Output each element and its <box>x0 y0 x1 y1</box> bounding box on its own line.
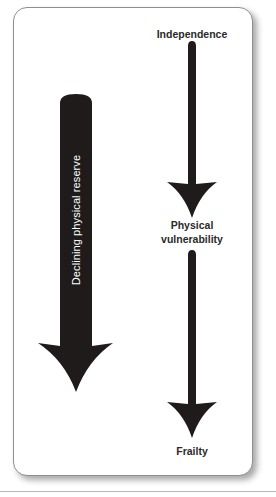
declining-reserve-label: Declining physical reserve <box>70 155 82 285</box>
arrow-vulnerability-to-frailty <box>167 250 217 438</box>
stage-physical-vulnerability-line1: Physical <box>142 218 242 232</box>
diagram-arrows <box>0 0 276 497</box>
stage-physical-vulnerability: Physical vulnerability <box>142 218 242 246</box>
stage-frailty: Frailty <box>142 444 242 458</box>
stage-physical-vulnerability-line2: vulnerability <box>142 232 242 246</box>
stage-independence: Independence <box>142 27 242 41</box>
arrow-independence-to-vulnerability <box>167 41 217 218</box>
